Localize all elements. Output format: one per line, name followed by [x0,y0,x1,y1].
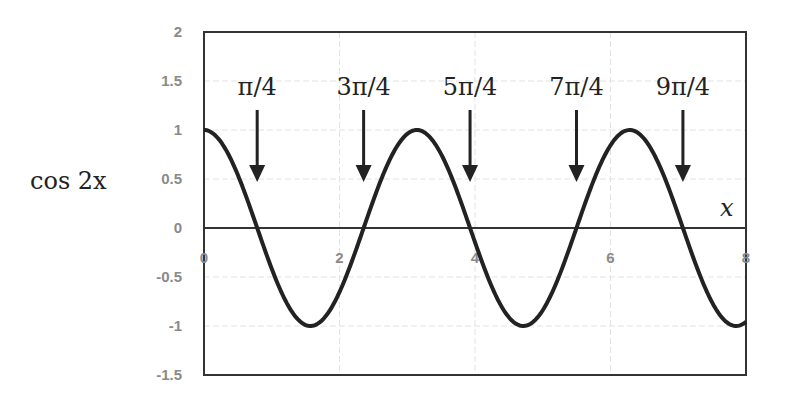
x-tick-label: 6 [606,249,614,266]
x-tick-label: 8 [742,249,750,266]
annotation-π/4: π/4 [238,73,277,182]
y-axis-label: cos 2x [30,167,107,195]
annotation-label: π/4 [238,73,277,101]
y-tick-label: 0.5 [161,170,182,187]
annotation-label: 7π/4 [549,73,603,101]
x-tick-label: 2 [335,249,343,266]
y-tick-labels: 21.510.50-0.5-1-1.5 [156,23,182,383]
y-tick-label: -0.5 [156,268,182,285]
annotation-3π/4: 3π/4 [336,73,390,182]
annotation-7π/4: 7π/4 [549,73,603,182]
x-tick-labels: 02468 [200,249,750,266]
y-tick-label: -1.5 [156,366,182,383]
annotation-5π/4: 5π/4 [443,73,497,182]
x-tick-label: 0 [200,249,208,266]
annotation-label: 9π/4 [656,73,710,101]
y-tick-label: 2 [174,23,182,40]
annotation-label: 3π/4 [336,73,390,101]
annotation-9π/4: 9π/4 [656,73,710,182]
y-tick-label: -1 [169,317,182,334]
y-tick-label: 0 [174,219,182,236]
annotation-label: 5π/4 [443,73,497,101]
y-tick-label: 1.5 [161,72,182,89]
annotations: π/43π/45π/47π/49π/4 [238,73,711,182]
x-axis-label: x [720,194,734,222]
y-tick-label: 1 [174,121,182,138]
cos2x-chart: 21.510.50-0.5-1-1.5 02468 π/43π/45π/47π/… [0,0,790,404]
